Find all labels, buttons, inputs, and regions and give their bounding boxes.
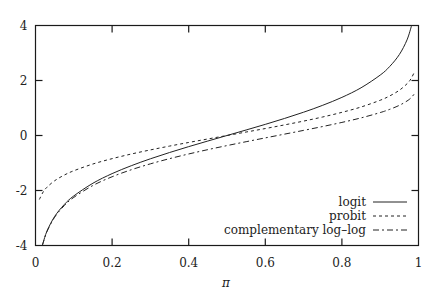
x-tick-label: 0.6: [256, 256, 275, 270]
x-tick-label: 0.2: [103, 256, 122, 270]
legend-item: probit: [329, 209, 407, 223]
y-tick-label: 2: [20, 74, 28, 88]
legend-item: complementary log–log: [224, 223, 407, 237]
legend-label: probit: [329, 209, 366, 223]
x-axis-label: π: [221, 276, 231, 290]
legend-label: complementary log–log: [224, 223, 366, 237]
x-tick-label: 0: [32, 256, 40, 270]
x-tick-label: 0.8: [332, 256, 351, 270]
x-tick-labels: 00.20.40.60.81: [32, 256, 423, 270]
y-tick-label: 0: [20, 129, 28, 143]
x-tick-label: 1: [415, 256, 423, 270]
link-functions-chart: 00.20.40.60.81 -4-2024 π logitprobitcomp…: [0, 0, 438, 296]
legend-item: logit: [339, 195, 407, 209]
legend: logitprobitcomplementary log–log: [224, 195, 407, 237]
x-tick-label: 0.4: [179, 256, 198, 270]
y-tick-label: 4: [20, 19, 28, 33]
y-tick-label: -4: [16, 239, 28, 253]
y-tick-label: -2: [16, 184, 28, 198]
y-tick-labels: -4-2024: [16, 19, 28, 253]
legend-label: logit: [339, 195, 367, 209]
